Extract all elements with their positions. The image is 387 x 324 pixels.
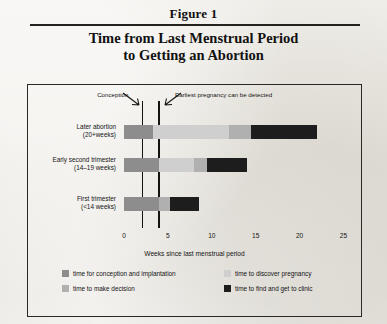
category-label-line1: First trimester: [77, 195, 116, 203]
category-label-line2: (<14 weeks): [77, 203, 116, 211]
figure-rule: [30, 24, 360, 26]
bar-2: [124, 197, 199, 211]
chart-plot-area: ConceptionEarliest pregnancy can be dete…: [28, 85, 361, 316]
legend-label: time to make decision: [73, 285, 135, 292]
bar-0: [124, 125, 317, 139]
figure-label: Figure 1: [170, 6, 218, 21]
x-tick-label-5: 5: [158, 232, 178, 239]
x-tick-label-20: 20: [290, 232, 310, 239]
annotation-arrow-conception: [122, 92, 144, 108]
legend-swatch-icon: [62, 285, 69, 292]
bar-1: [124, 158, 247, 172]
annotation-arrow-earliest-detection: [160, 92, 182, 108]
legend-swatch-icon: [62, 270, 69, 277]
category-label-line2: (14–19 weeks): [52, 164, 116, 172]
bar-segment-time-to-find-and-get-to-clinic: [251, 125, 317, 139]
x-tick-label-10: 10: [202, 232, 222, 239]
legend-label: time to find and get to clinic: [235, 285, 312, 292]
legend-item-0[interactable]: time for conception and implantation: [62, 270, 176, 277]
annotation-label-earliest-detection: Earliest pregnancy can be detected: [175, 91, 272, 98]
category-label-1: Early second trimester(14–19 weeks): [52, 156, 116, 172]
bar-segment-time-for-conception-and-implantation: [124, 125, 153, 139]
category-label-line2: (20+weeks): [77, 131, 116, 139]
bar-segment-time-to-find-and-get-to-clinic: [207, 158, 247, 172]
bar-segment-time-to-make-decision: [229, 125, 251, 139]
x-axis-title: Weeks since last menstrual period: [28, 250, 361, 257]
figure-header: Figure 1: [0, 4, 387, 22]
category-label-2: First trimester(<14 weeks): [77, 195, 116, 211]
bar-segment-time-for-conception-and-implantation: [124, 197, 159, 211]
x-tick-label-0: 0: [114, 232, 134, 239]
legend-label: time to discover pregnancy: [235, 270, 311, 277]
category-label-line1: Later abortion: [77, 123, 116, 131]
legend-swatch-icon: [224, 285, 231, 292]
page-title: Time from Last Menstrual Period to Getti…: [0, 30, 387, 64]
bar-segment-time-to-discover-pregnancy: [159, 158, 194, 172]
bar-segment-time-for-conception-and-implantation: [124, 158, 159, 172]
chart-legend: time for conception and implantationtime…: [28, 270, 361, 302]
legend-item-3[interactable]: time to find and get to clinic: [224, 285, 312, 292]
category-label-line1: Early second trimester: [52, 156, 116, 164]
category-label-0: Later abortion(20+weeks): [77, 123, 116, 139]
x-tick-label-15: 15: [246, 232, 266, 239]
bar-segment-time-to-make-decision: [194, 158, 207, 172]
bar-segment-time-to-discover-pregnancy: [153, 125, 229, 139]
bar-segment-time-to-find-and-get-to-clinic: [170, 197, 199, 211]
x-tick-label-25: 25: [334, 232, 354, 239]
legend-item-1[interactable]: time to make decision: [62, 285, 135, 292]
legend-item-2[interactable]: time to discover pregnancy: [224, 270, 311, 277]
figure-title-line2: to Getting an Abortion: [0, 47, 387, 64]
figure-title-line1: Time from Last Menstrual Period: [89, 30, 299, 46]
chart-frame: ConceptionEarliest pregnancy can be dete…: [27, 84, 362, 317]
legend-label: time for conception and implantation: [73, 270, 176, 277]
legend-swatch-icon: [224, 270, 231, 277]
bar-segment-time-to-make-decision: [159, 197, 170, 211]
